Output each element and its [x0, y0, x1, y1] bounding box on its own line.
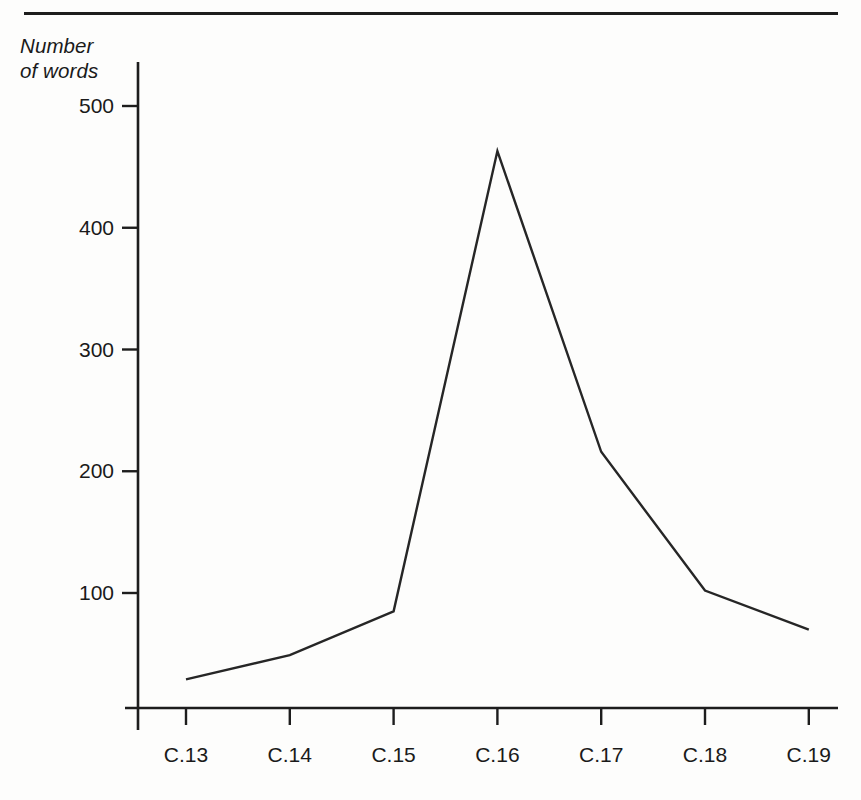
figure-page: Number of words 100200300400500 C.13C.14… — [0, 0, 861, 800]
y-axis-tick-label: 200 — [44, 459, 114, 483]
data-series-line — [186, 151, 809, 679]
x-axis-ticks — [186, 708, 809, 725]
x-axis-tick-label: C.19 — [764, 743, 854, 767]
y-axis-tick-label: 400 — [44, 216, 114, 240]
x-axis-tick-label: C.13 — [141, 743, 231, 767]
line-chart-plot — [0, 0, 861, 800]
x-axis-tick-label: C.16 — [452, 743, 542, 767]
y-axis-ticks — [122, 106, 138, 593]
x-axis-tick-label: C.18 — [660, 743, 750, 767]
x-axis-tick-label: C.15 — [349, 743, 439, 767]
chart-axes — [125, 62, 838, 730]
y-axis-tick-label: 300 — [44, 338, 114, 362]
x-axis-tick-label: C.14 — [245, 743, 335, 767]
x-axis-tick-label: C.17 — [556, 743, 646, 767]
y-axis-tick-label: 100 — [44, 581, 114, 605]
y-axis-tick-label: 500 — [44, 94, 114, 118]
